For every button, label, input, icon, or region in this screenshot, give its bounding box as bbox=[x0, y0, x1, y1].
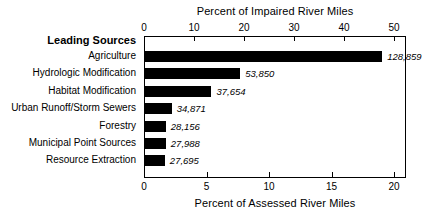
category-label: Hydrologic Modification bbox=[0, 67, 140, 78]
bottom-axis-tick-labels: 05101520 bbox=[0, 181, 423, 194]
bottom-tick-label: 0 bbox=[129, 181, 159, 192]
bottom-tick-mark bbox=[332, 172, 333, 177]
category-label: Forestry bbox=[0, 120, 140, 131]
bottom-axis-title: Percent of Assessed River Miles bbox=[144, 197, 406, 209]
bottom-tick-mark bbox=[394, 172, 395, 177]
top-tick-label: 30 bbox=[279, 22, 309, 33]
bar-value-label: 27,695 bbox=[170, 155, 199, 166]
bar-value-label: 34,871 bbox=[177, 103, 206, 114]
bottom-tick-mark bbox=[207, 172, 208, 177]
category-label: Agriculture bbox=[0, 50, 140, 61]
bar bbox=[145, 103, 172, 114]
bottom-tick-mark bbox=[269, 172, 270, 177]
bar bbox=[145, 121, 166, 132]
top-tick-mark bbox=[194, 36, 195, 41]
category-label: Habitat Modification bbox=[0, 85, 140, 96]
bar-value-label: 53,850 bbox=[245, 68, 274, 79]
top-tick-label: 20 bbox=[229, 22, 259, 33]
top-axis-title: Percent of Impaired River Miles bbox=[144, 5, 406, 17]
bottom-tick-label: 10 bbox=[254, 181, 284, 192]
bar bbox=[145, 86, 211, 97]
bars-layer: 128,85953,85037,65434,87128,15627,98827,… bbox=[145, 37, 405, 177]
bottom-tick-label: 5 bbox=[192, 181, 222, 192]
top-tick-mark bbox=[244, 36, 245, 41]
top-tick-mark bbox=[394, 36, 395, 41]
bar bbox=[145, 68, 240, 79]
top-tick-label: 40 bbox=[329, 22, 359, 33]
category-label: Urban Runoff/Storm Sewers bbox=[0, 102, 140, 113]
top-tick-label: 10 bbox=[179, 22, 209, 33]
category-label-column: Leading SourcesAgricultureHydrologic Mod… bbox=[0, 36, 140, 178]
top-tick-mark bbox=[344, 36, 345, 41]
bar-value-label: 28,156 bbox=[171, 121, 200, 132]
top-tick-mark bbox=[294, 36, 295, 41]
bar bbox=[145, 155, 165, 166]
top-tick-label: 50 bbox=[379, 22, 409, 33]
bottom-tick-label: 15 bbox=[317, 181, 347, 192]
category-header: Leading Sources bbox=[0, 34, 140, 46]
bar-value-label: 128,859 bbox=[387, 51, 421, 62]
top-tick-label: 0 bbox=[129, 22, 159, 33]
bar-value-label: 37,654 bbox=[216, 86, 245, 97]
bar bbox=[145, 51, 382, 62]
bar-value-label: 27,988 bbox=[171, 138, 200, 149]
category-label: Municipal Point Sources bbox=[0, 137, 140, 148]
category-label: Resource Extraction bbox=[0, 154, 140, 165]
chart-root: Percent of Impaired River Miles 01020304… bbox=[0, 0, 423, 217]
bar bbox=[145, 138, 166, 149]
bottom-tick-label: 20 bbox=[379, 181, 409, 192]
